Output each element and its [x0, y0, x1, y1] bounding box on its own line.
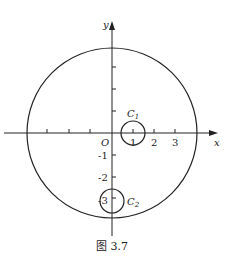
y-tick-label-neg3: -3	[98, 195, 108, 206]
y-axis-arrow-icon	[109, 21, 115, 30]
x-tick-label-1: 1	[130, 137, 136, 148]
y-axis-label: y	[102, 19, 109, 30]
x-axis-label: x	[214, 137, 220, 148]
c1-label: C1	[127, 108, 139, 121]
origin-label: O	[101, 137, 109, 148]
y-tick-label-neg2: -2	[98, 172, 108, 183]
x-tick-label-2: 2	[151, 137, 157, 148]
c2-label: C2	[127, 196, 140, 209]
x-axis-arrow-icon	[209, 130, 218, 136]
figure-canvas: y x O 1 2 3 -1 -2 -3 C1 C2 图 3.7	[0, 0, 225, 261]
x-ticks	[47, 129, 175, 133]
x-tick-label-3: 3	[172, 137, 178, 148]
figure-caption: 图 3.7	[96, 240, 128, 253]
y-tick-label-neg1: -1	[98, 150, 108, 161]
